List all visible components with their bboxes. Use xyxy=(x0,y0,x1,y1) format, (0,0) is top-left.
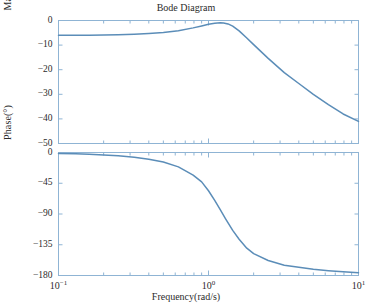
x-tick-label: 10−1 xyxy=(39,279,79,291)
y-tick-label: −90 xyxy=(38,208,53,218)
y-tick-label: −30 xyxy=(38,88,53,98)
response-curves xyxy=(59,23,359,273)
y-tick-label: −40 xyxy=(38,113,53,123)
y-tick-label: −180 xyxy=(33,270,53,280)
x-tick-label: 101 xyxy=(339,279,372,291)
y-tick-label: −45 xyxy=(38,177,53,187)
y-tick-label: −135 xyxy=(33,239,53,249)
axes-frames xyxy=(59,21,359,276)
x-tick-label: 100 xyxy=(189,279,229,291)
phase-response xyxy=(59,154,359,273)
magnitude-response xyxy=(59,23,359,122)
plot-canvas xyxy=(0,0,372,308)
y-tick-label: −10 xyxy=(38,39,53,49)
y-tick-label: −20 xyxy=(38,64,53,74)
y-tick-label: 0 xyxy=(48,15,53,25)
bode-diagram-figure: Bode Diagram Magnitude(dB) Phase(°) Freq… xyxy=(0,0,372,308)
y-tick-label: 0 xyxy=(48,147,53,157)
